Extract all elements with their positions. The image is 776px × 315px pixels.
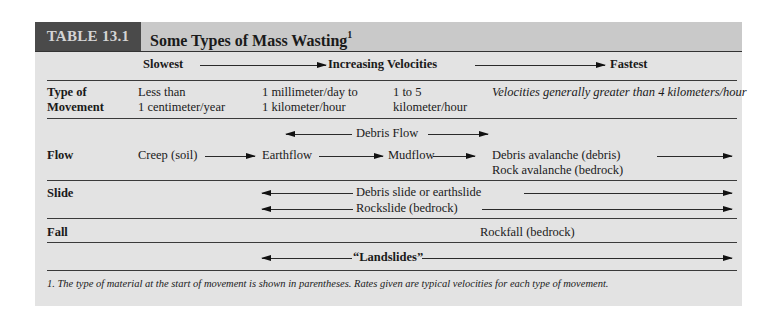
rock-avalanche-label: Rock avalanche (bedrock)	[492, 163, 623, 178]
table-header: TABLE 13.1 Some Types of Mass Wasting1	[35, 22, 742, 51]
type-of-movement-label-2: Movement	[47, 100, 104, 115]
arrow-left-icon	[286, 134, 352, 135]
rockslide-label: Rockslide (bedrock)	[356, 201, 458, 216]
mass-wasting-table: TABLE 13.1 Some Types of Mass Wasting1 S…	[35, 22, 742, 306]
velocity-slowest-1: Less than	[138, 85, 186, 100]
arrow-right-icon	[475, 65, 605, 66]
row-divider	[47, 218, 737, 219]
header-rule	[35, 51, 742, 52]
debris-slide-label: Debris slide or earthslide	[356, 185, 481, 200]
row-divider	[47, 118, 737, 119]
row-divider	[47, 80, 737, 81]
velocity-mid-2: 1 kilometer/hour	[262, 100, 346, 115]
arrow-right-icon	[422, 258, 732, 259]
slide-label: Slide	[47, 186, 73, 201]
arrow-right-icon	[200, 65, 326, 66]
table-title-text: Some Types of Mass Wasting	[150, 32, 347, 49]
mudflow-label: Mudflow	[388, 148, 435, 163]
debris-avalanche-label: Debris avalanche (debris)	[492, 148, 620, 163]
debris-flow-label: Debris Flow	[356, 126, 418, 141]
velocity-mid-1: 1 millimeter/day to	[262, 85, 358, 100]
slowest-label: Slowest	[143, 57, 183, 72]
fall-label: Fall	[47, 225, 68, 240]
table-footnote: 1. The type of material at the start of …	[47, 276, 608, 291]
row-divider	[47, 270, 737, 271]
type-of-movement-label-1: Type of	[47, 85, 87, 100]
arrow-right-icon	[433, 156, 475, 157]
arrow-right-icon	[205, 156, 255, 157]
flow-label: Flow	[47, 148, 73, 163]
arrow-left-icon	[262, 258, 352, 259]
velocity-fastest: Velocities generally greater than 4 kilo…	[492, 85, 747, 100]
arrow-right-icon	[657, 156, 732, 157]
landslides-label: “Landslides”	[353, 250, 423, 265]
table-title: Some Types of Mass Wasting1	[150, 22, 352, 51]
arrow-left-icon	[262, 193, 353, 194]
earthflow-label: Earthflow	[262, 148, 312, 163]
creep-label: Creep (soil)	[138, 148, 197, 163]
rockfall-label: Rockfall (bedrock)	[480, 225, 575, 240]
arrow-right-icon	[319, 156, 383, 157]
velocity-fast-1: 1 to 5	[393, 85, 421, 100]
row-divider	[47, 242, 737, 243]
row-divider	[47, 180, 737, 181]
arrow-right-icon	[482, 209, 732, 210]
fastest-label: Fastest	[610, 57, 648, 72]
increasing-velocities-label: Increasing Velocities	[328, 57, 437, 72]
velocity-slowest-2: 1 centimeter/year	[138, 100, 225, 115]
table-number: TABLE 13.1	[35, 22, 141, 51]
arrow-right-icon	[428, 134, 488, 135]
title-footnote-mark: 1	[347, 29, 352, 40]
arrow-left-icon	[262, 209, 353, 210]
velocity-fast-2: kilometer/hour	[393, 100, 467, 115]
arrow-right-icon	[524, 193, 732, 194]
